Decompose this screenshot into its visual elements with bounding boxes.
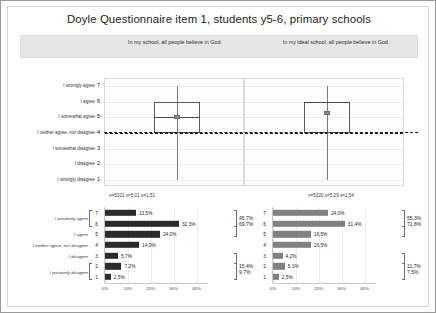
boxplot-y-label-4: I neither agree, nor disagree4 [37, 129, 100, 135]
boxplot-y-label-2: I disagree2 [75, 160, 100, 166]
barchart-category-number-7: 7 [93, 211, 100, 216]
bar-3 [273, 252, 283, 258]
barchart-category-number-2: 2 [261, 264, 268, 269]
barchart-x-axis [273, 283, 376, 284]
bar-1 [273, 274, 279, 280]
bar-4 [273, 242, 311, 248]
barchart-category-number-3: 3 [93, 253, 100, 258]
barchart-group-label-4: I positively disagree [49, 269, 88, 274]
bar-value-label-2: 7,2% [124, 264, 135, 269]
bar-3 [105, 252, 118, 258]
y-label-text: I strongly disagree [57, 177, 95, 182]
bar-value-label-4: 14,9% [142, 243, 156, 248]
barchart-panel-left: 7654321I positively agreeI agreeI neithe… [20, 203, 244, 308]
boxplot-gridline [245, 164, 403, 165]
boxplot-y-label-5: I somewhat agree5 [58, 113, 100, 119]
panel-right-subtitle: In my ideal school, all people believe i… [256, 39, 416, 45]
y-label-number: 3 [97, 145, 100, 151]
barchart-x-tick-0: 0% [102, 286, 108, 291]
barchart-category-number-5: 5 [93, 232, 100, 237]
y-label-text: I disagree [75, 161, 95, 166]
bar-value-label-5: 16,5% [314, 232, 328, 237]
barchart-plot-area-left: 13,5%32,3%24,0%14,9%5,7%7,2%2,5%0%10%20%… [104, 207, 208, 283]
boxplot-panel-left: I strongly agree7I agree6I somewhat agre… [20, 58, 244, 198]
bar-value-label-2: 5,1% [288, 264, 299, 269]
bar-6 [105, 220, 179, 226]
y-label-text: I neither agree, nor disagree [37, 130, 95, 135]
barchart-group-label-0: I positively agree [55, 216, 88, 221]
y-label-text: I strongly agree [63, 83, 95, 88]
bar-value-label-5: 24,0% [163, 232, 177, 237]
y-label-number: 4 [97, 129, 100, 135]
y-label-number: 5 [97, 113, 100, 119]
barchart-category-number-2: 2 [93, 264, 100, 269]
boxplot-reference-line [245, 133, 403, 134]
barchart-group-bracket-0 [89, 210, 92, 227]
barchart-x-tick-1: 10% [123, 286, 132, 291]
boxplot-gridline [245, 86, 403, 87]
figure-frame: Doyle Questionnaire item 1, students y5-… [7, 6, 429, 307]
barchart-plot-area-right: 24,0%31,4%16,5%16,5%4,2%5,1%2,5%0%10%20%… [272, 207, 376, 283]
bar-6 [273, 220, 345, 226]
barchart-summary-value-3: 7,5% [407, 269, 418, 275]
barchart-category-labels-left: 7654321I positively agreeI agreeI neithe… [20, 207, 104, 283]
y-label-text: I somewhat agree [58, 114, 95, 119]
panel-left-subtitle: In my school, all people believe in God. [100, 39, 250, 45]
y-label-number: 1 [97, 176, 100, 182]
barchart-summary-bracket-1 [234, 210, 237, 237]
barchart-panel-right: 7654321 24,0%31,4%16,5%16,5%4,2%5,1%2,5%… [244, 203, 418, 308]
y-label-number: 2 [97, 160, 100, 166]
bar-value-label-3: 4,2% [286, 253, 297, 258]
boxplot-gridline [105, 180, 243, 181]
bar-value-label-3: 5,7% [121, 253, 132, 258]
bar-value-label-7: 24,0% [331, 211, 345, 216]
barchart-group-bracket-4 [89, 263, 92, 280]
boxplot-stats-right: n=5320 x=5,29 s=1,54 [244, 193, 418, 198]
barchart-gridline [174, 207, 175, 283]
barchart-category-labels-right: 7654321 [244, 207, 272, 283]
bar-1 [105, 274, 111, 280]
barchart-category-number-1: 1 [93, 275, 100, 280]
barchart-x-tick-4: 40% [360, 286, 369, 291]
barchart-gridline [197, 207, 198, 283]
boxplot-reference-line-extension [104, 132, 418, 133]
boxplot-y-label-7: I strongly agree7 [63, 82, 100, 88]
y-label-number: 6 [97, 98, 100, 104]
boxplot-box [304, 102, 350, 133]
y-label-number: 7 [97, 82, 100, 88]
bar-2 [273, 263, 285, 269]
barchart-category-number-7: 7 [261, 211, 268, 216]
bar-value-label-6: 31,4% [348, 221, 362, 226]
bar-7 [273, 210, 328, 216]
boxplot-gridline [105, 149, 243, 150]
boxplot-reference-line [105, 133, 243, 134]
barchart-group-label-1: I agree [74, 232, 88, 237]
barchart-category-number-6: 6 [261, 221, 268, 226]
barchart-category-number-4: 4 [261, 243, 268, 248]
barchart-x-tick-3: 30% [169, 286, 178, 291]
barchart-x-tick-0: 0% [270, 286, 276, 291]
boxplot-y-label-6: I agree6 [81, 98, 100, 104]
boxplot-y-label-1: I strongly disagree1 [57, 176, 100, 182]
boxplot-gridline [245, 180, 403, 181]
boxplot-mean-marker [174, 115, 180, 119]
bar-2 [105, 263, 121, 269]
bar-value-label-6: 32,3% [182, 221, 196, 226]
barchart-x-tick-2: 20% [314, 286, 323, 291]
bar-value-label-7: 13,5% [139, 211, 153, 216]
barchart-summary-bracket-3 [234, 263, 237, 280]
barchart-category-number-1: 1 [261, 275, 268, 280]
figure-page: Doyle Questionnaire item 1, students y5-… [0, 0, 436, 313]
barchart-gridline [365, 207, 366, 283]
barchart-x-tick-3: 30% [337, 286, 346, 291]
boxplot-gridline [245, 149, 403, 150]
barchart-group-label-3: I disagree [69, 253, 88, 258]
barchart-summary-bracket-1 [402, 210, 405, 237]
bar-4 [105, 242, 139, 248]
bar-value-label-4: 16,5% [314, 243, 328, 248]
boxplot-y-label-3: I somewhat disagree3 [52, 145, 100, 151]
barchart-summary-value-1: 71,8% [407, 221, 421, 227]
bar-value-label-1: 2,5% [114, 275, 125, 280]
barchart-gridline [342, 207, 343, 283]
boxplot-whisker [327, 86, 328, 180]
